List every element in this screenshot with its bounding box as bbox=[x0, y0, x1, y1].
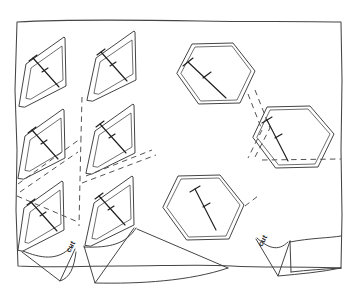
arrow-L1 bbox=[29, 55, 59, 87]
diagram-canvas: cut cut bbox=[0, 0, 356, 292]
partial-hexagon-mid-3 bbox=[85, 176, 134, 246]
arrow-L2 bbox=[28, 127, 58, 159]
hexagon-upper bbox=[177, 43, 255, 104]
partial-hexagon-mid-1 bbox=[87, 31, 136, 101]
hexagon-lower bbox=[163, 175, 244, 240]
arrow-hex-lower bbox=[190, 186, 216, 230]
fold-lines bbox=[17, 90, 341, 226]
arrow-M2 bbox=[96, 121, 126, 153]
hand-drawn-figure: cut cut bbox=[0, 0, 356, 292]
cut-label-left: cut bbox=[64, 239, 78, 254]
partial-hexagon-mid-2 bbox=[86, 104, 135, 174]
arrow-hex-upper bbox=[183, 58, 226, 98]
arrow-M3 bbox=[95, 193, 125, 225]
outer-sheet-boundary bbox=[15, 20, 342, 268]
cut-notch-right bbox=[256, 238, 341, 276]
arrow-L3 bbox=[27, 199, 57, 231]
